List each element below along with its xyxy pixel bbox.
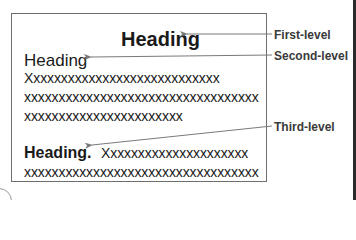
body-text-line-4: xxxxxxxxxxxxxxxxxxxxxxxxxxxxxxxxxx xyxy=(24,165,259,179)
first-level-heading: Heading xyxy=(121,29,200,49)
body-text-line-2: xxxxxxxxxxxxxxxxxxxxxxxxxxxxxxxxxx xyxy=(24,90,259,104)
second-level-label: Second-level xyxy=(274,50,348,62)
page-curl-decoration xyxy=(0,188,12,200)
body-text-line-1: Xxxxxxxxxxxxxxxxxxxxxxxxxxxx xyxy=(24,71,220,85)
third-level-label: Third-level xyxy=(274,121,335,133)
second-level-heading: Heading xyxy=(24,52,87,69)
third-level-heading: Heading. xyxy=(24,145,92,161)
body-text-line-3: xxxxxxxxxxxxxxxxxxxxxxx xyxy=(24,109,183,123)
run-in-text: Xxxxxxxxxxxxxxxxxxxxx xyxy=(101,146,248,160)
first-level-label: First-level xyxy=(274,29,331,41)
